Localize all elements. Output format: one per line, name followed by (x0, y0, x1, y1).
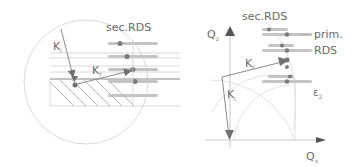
reciprocal-point (285, 48, 289, 52)
reciprocal-point (125, 54, 130, 59)
rds-streaks-right (262, 28, 312, 84)
prim-label: prim. (314, 28, 343, 41)
reciprocal-point (285, 79, 289, 83)
rds-label: RDS (314, 44, 337, 57)
diffraction-geometry-diagram: sec.RDS Ki Kf (0, 0, 357, 167)
epsilon-label: ε2 (313, 87, 322, 100)
streak (262, 28, 288, 31)
ewald-arc-3 (210, 80, 295, 140)
epsilon-subscript: 2 (318, 93, 322, 100)
qx-subscript: x (315, 157, 319, 164)
reciprocal-point (267, 28, 271, 32)
qz-axis-label: Qz (207, 28, 219, 42)
qx-axis-label: Qx (306, 150, 319, 164)
ki-subscript: i (234, 95, 236, 102)
vector-ki-right (222, 77, 229, 136)
qx-arrowhead (316, 137, 326, 143)
sec-rds-label-right: sec.RDS (242, 10, 287, 23)
qz-arrowhead (225, 26, 235, 36)
ewald-arc (212, 75, 295, 140)
ki-label-left: Ki (53, 40, 62, 54)
vector-ki-left (61, 29, 73, 76)
kf-label-right: Kf (245, 57, 255, 71)
origin-dot-left (73, 83, 78, 88)
kf-subscript: f (252, 64, 255, 71)
qz-symbol: Q (207, 28, 216, 41)
reciprocal-point (285, 65, 289, 69)
reciprocal-point (285, 32, 289, 36)
right-panel: sec.RDS prim. RDS Qz Qx Kf Ki ε2 (205, 10, 343, 164)
reciprocal-point (118, 41, 123, 46)
qx-symbol: Q (306, 150, 315, 163)
ewald-arc-2 (234, 85, 290, 140)
reciprocal-point (280, 44, 284, 48)
qz-subscript: z (216, 35, 219, 42)
substrate-hatch (50, 80, 134, 106)
left-panel: sec.RDS Ki Kf (24, 20, 180, 144)
ki-arrowhead-right (225, 130, 234, 140)
ki-label-right: Ki (227, 88, 236, 102)
sec-rds-label-left: sec.RDS (106, 21, 151, 34)
reciprocal-point (288, 75, 292, 79)
rds-streaks-left (108, 40, 158, 106)
